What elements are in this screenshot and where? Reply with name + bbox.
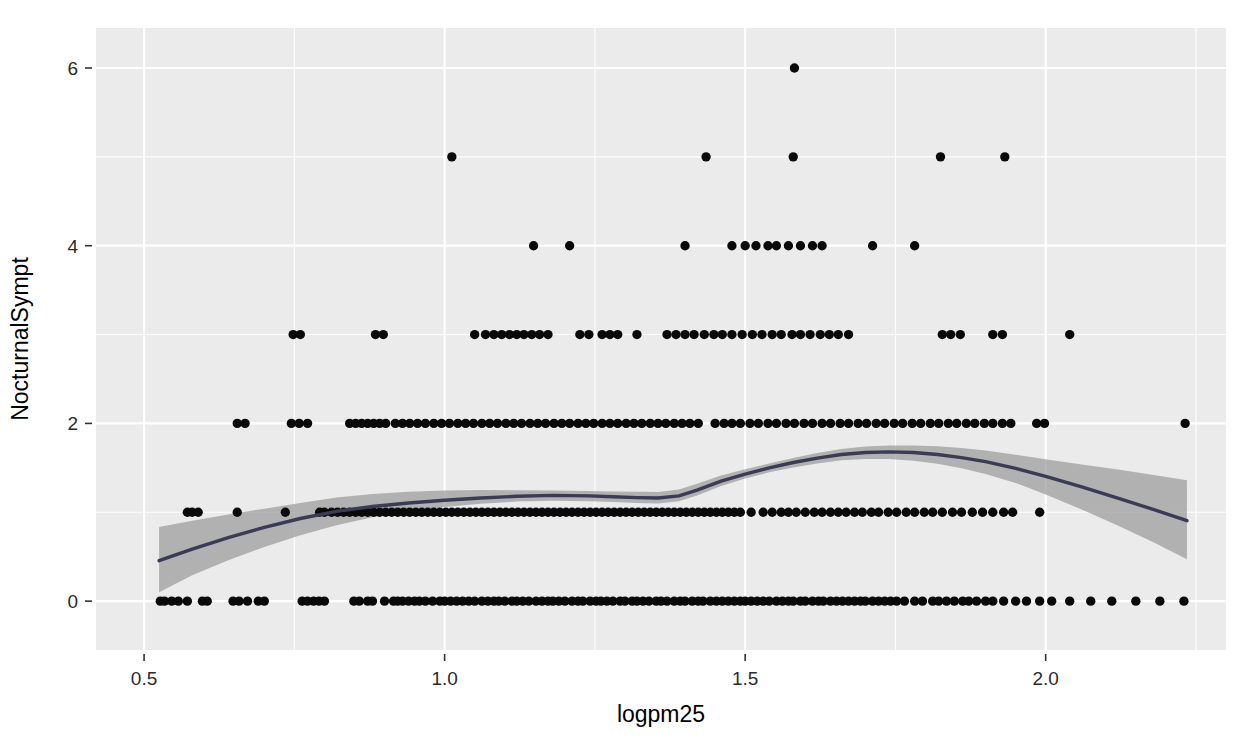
data-point — [565, 241, 574, 250]
data-point — [632, 330, 641, 339]
data-point — [872, 419, 881, 428]
data-point — [980, 419, 989, 428]
data-point — [768, 330, 777, 339]
data-point — [799, 419, 808, 428]
data-point — [689, 330, 698, 339]
data-point — [481, 330, 490, 339]
data-point — [910, 508, 919, 517]
data-point — [998, 330, 1007, 339]
data-point — [613, 330, 622, 339]
data-point — [709, 330, 718, 339]
data-point — [740, 241, 749, 250]
data-point — [952, 419, 961, 428]
data-point — [203, 596, 212, 605]
y-axis-ticks: 0246 — [67, 58, 92, 612]
data-point — [928, 508, 937, 517]
data-point — [1035, 508, 1044, 517]
data-point — [988, 508, 997, 517]
data-point — [796, 241, 805, 250]
data-point — [718, 330, 727, 339]
data-point — [784, 241, 793, 250]
data-point — [320, 596, 329, 605]
data-point — [260, 596, 269, 605]
data-point — [884, 508, 893, 517]
data-point — [817, 508, 826, 517]
data-point — [956, 330, 965, 339]
data-point — [759, 508, 768, 517]
data-point — [936, 152, 945, 161]
data-point — [381, 419, 390, 428]
data-point — [880, 419, 889, 428]
data-point — [710, 419, 719, 428]
data-point — [240, 419, 249, 428]
data-point — [874, 508, 883, 517]
y-tick-label: 4 — [67, 236, 78, 257]
data-point — [817, 419, 826, 428]
data-point — [613, 419, 622, 428]
data-point — [841, 508, 850, 517]
data-point — [303, 419, 312, 428]
data-point — [748, 330, 757, 339]
data-point — [978, 508, 987, 517]
data-point — [637, 419, 646, 428]
data-point — [868, 241, 877, 250]
data-point — [898, 419, 907, 428]
x-axis-title: logpm25 — [617, 701, 705, 727]
data-point — [988, 330, 997, 339]
data-point — [853, 419, 862, 428]
data-point — [844, 419, 853, 428]
data-point — [736, 508, 745, 517]
data-point — [1000, 152, 1009, 161]
data-point — [445, 419, 454, 428]
data-point — [535, 330, 544, 339]
data-point — [1022, 596, 1031, 605]
data-point — [694, 419, 703, 428]
data-point — [671, 330, 680, 339]
data-point — [680, 241, 689, 250]
data-point — [1011, 596, 1020, 605]
data-point — [858, 508, 867, 517]
data-point — [517, 419, 526, 428]
data-point — [589, 419, 598, 428]
data-point — [902, 508, 911, 517]
data-point — [529, 241, 538, 250]
data-point — [844, 330, 853, 339]
data-point — [296, 330, 305, 339]
data-point — [808, 419, 817, 428]
data-point — [900, 596, 909, 605]
scatter-plot-svg: 0.51.01.52.0 0246 logpm25 NocturnalSympt — [0, 0, 1253, 746]
data-point — [1131, 596, 1140, 605]
data-point — [380, 596, 389, 605]
data-point — [662, 330, 671, 339]
data-point — [826, 419, 835, 428]
data-point — [972, 596, 981, 605]
data-point — [805, 330, 814, 339]
data-point — [834, 330, 843, 339]
data-point — [470, 330, 479, 339]
data-point — [754, 419, 763, 428]
data-point — [835, 419, 844, 428]
data-point — [736, 419, 745, 428]
data-point — [792, 508, 801, 517]
data-point — [817, 241, 826, 250]
data-point — [862, 419, 871, 428]
data-point — [944, 419, 953, 428]
data-point — [772, 419, 781, 428]
data-point — [1180, 419, 1189, 428]
data-point — [789, 152, 798, 161]
data-point — [757, 330, 766, 339]
data-point — [926, 419, 935, 428]
data-point — [988, 596, 997, 605]
plot-panel-background — [96, 28, 1226, 650]
data-point — [816, 330, 825, 339]
data-point — [379, 330, 388, 339]
data-point — [355, 596, 364, 605]
data-point — [962, 419, 971, 428]
data-point — [910, 241, 919, 250]
data-point — [916, 419, 925, 428]
data-point — [565, 419, 574, 428]
data-point — [918, 596, 927, 605]
data-point — [745, 419, 754, 428]
data-point — [790, 419, 799, 428]
data-point — [998, 419, 1007, 428]
